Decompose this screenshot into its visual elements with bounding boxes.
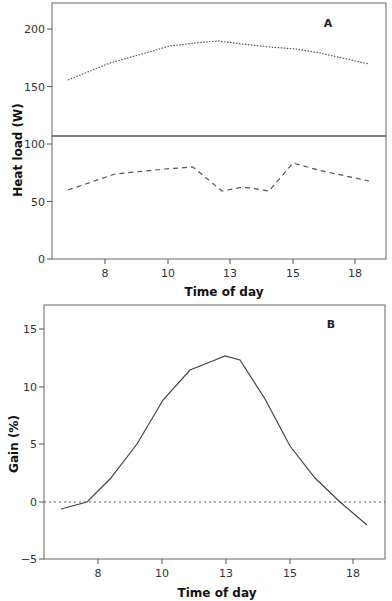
panel-b-label: B (327, 318, 335, 331)
panel-a-ytick-label: 200 (24, 23, 45, 36)
panel-b-ytick-label: 0 (30, 496, 37, 509)
panel-b-xtick-label: 10 (155, 567, 169, 580)
panel-a-xtick-label: 8 (102, 267, 109, 280)
panel-a-y-axis-title: Heat load (W) (11, 103, 25, 197)
panel-a-xtick-label: 18 (348, 267, 362, 280)
panel-a-ytick-label: 100 (24, 138, 45, 151)
panel-b: 15 10 5 0 −5 8 10 13 15 18 Time of day G… (7, 305, 385, 600)
panel-a-xtick-label: 10 (161, 267, 175, 280)
panel-b-xtick-label: 18 (346, 567, 360, 580)
panel-a-x-axis-title: Time of day (185, 285, 264, 299)
panel-b-x-axis-title: Time of day (178, 586, 257, 600)
panel-a-ytick-label: 50 (31, 196, 45, 209)
panel-a-label: A (324, 17, 333, 30)
panel-b-xtick-label: 13 (219, 567, 233, 580)
panel-b-ytick-label: 10 (23, 381, 37, 394)
panel-a-y-axis (47, 29, 52, 259)
panel-a-ytick-label: 0 (38, 253, 45, 266)
panel-b-ytick-label: 5 (30, 438, 37, 451)
figure: 200 150 100 50 0 8 10 13 15 18 Time of d… (0, 0, 392, 601)
panel-b-ytick-label: 15 (23, 323, 37, 336)
panel-b-xtick-label: 15 (283, 567, 297, 580)
panel-a-xtick-label: 15 (286, 267, 300, 280)
panel-a: 200 150 100 50 0 8 10 13 15 18 Time of d… (11, 3, 386, 299)
panel-b-y-axis (39, 329, 44, 559)
panel-b-plot-frame (44, 305, 385, 559)
panel-a-xtick-label: 13 (223, 267, 237, 280)
panel-a-ytick-label: 150 (24, 81, 45, 94)
panel-b-y-axis-title: Gain (%) (7, 415, 21, 473)
panel-b-ytick-label: −5 (21, 553, 37, 566)
panel-a-x-axis (105, 259, 355, 264)
panel-b-xtick-label: 8 (95, 567, 102, 580)
panel-b-x-axis (98, 559, 353, 564)
